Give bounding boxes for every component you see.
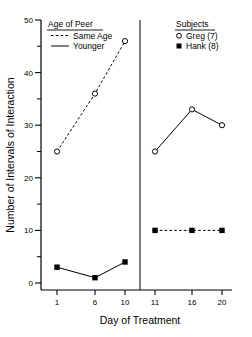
chart-figure: 50 40 30 20 10 0 Number of Intervals of … xyxy=(0,0,252,337)
legend-entry-hank-label: Hank (8) xyxy=(186,41,219,51)
y-tick-label-40: 40 xyxy=(24,69,33,78)
data-point-greg-day6 xyxy=(92,91,97,96)
legend-subjects-title: Subjects xyxy=(176,19,209,29)
y-axis: 50 40 30 20 10 0 xyxy=(24,16,41,290)
legend-entry-same-age-label: Same Age xyxy=(73,31,112,41)
legend-age-of-peer: Age of Peer Same Age Younger xyxy=(47,19,112,51)
data-point-hank-day20 xyxy=(219,228,224,233)
data-point-hank-day11 xyxy=(152,228,157,233)
y-tick-label-50: 50 xyxy=(24,16,33,25)
series-line-greg-baseline xyxy=(57,41,125,151)
y-tick-label-30: 30 xyxy=(24,121,33,130)
legend-entry-younger-label: Younger xyxy=(73,41,105,51)
y-axis-title: Number of Intervals of Interaction xyxy=(4,77,16,232)
x-tick-label-6: 6 xyxy=(93,298,98,307)
x-tick-label-20: 20 xyxy=(218,298,227,307)
y-tick-label-10: 10 xyxy=(24,226,33,235)
panel-treatment xyxy=(152,107,224,233)
legend-swatch-filled-square-icon xyxy=(177,44,182,49)
data-point-hank-day16 xyxy=(189,228,194,233)
data-point-greg-day11 xyxy=(152,149,157,154)
legend-entry-greg-label: Greg (7) xyxy=(186,31,218,41)
x-tick-label-11: 11 xyxy=(151,298,160,307)
data-point-hank-day6 xyxy=(92,275,97,280)
data-point-greg-day20 xyxy=(219,123,224,128)
legend-subjects: Subjects Greg (7) Hank (8) xyxy=(175,19,219,51)
data-point-hank-day1 xyxy=(54,265,59,270)
x-tick-label-10: 10 xyxy=(121,298,130,307)
legend-age-of-peer-title: Age of Peer xyxy=(48,19,93,29)
data-point-greg-day10 xyxy=(122,39,127,44)
series-line-greg-treatment xyxy=(155,109,222,151)
x-tick-label-16: 16 xyxy=(188,298,197,307)
data-point-greg-day16 xyxy=(189,107,194,112)
series-line-hank-baseline xyxy=(57,262,125,278)
x-axis: 1 6 10 11 16 20 xyxy=(41,290,232,307)
legend-swatch-open-circle-icon xyxy=(177,33,182,38)
data-point-greg-day1 xyxy=(54,149,59,154)
data-point-hank-day10 xyxy=(122,259,127,264)
x-tick-label-1: 1 xyxy=(55,298,60,307)
y-tick-label-20: 20 xyxy=(24,174,33,183)
y-tick-label-0: 0 xyxy=(29,279,34,288)
line-chart-svg: 50 40 30 20 10 0 Number of Intervals of … xyxy=(0,0,252,337)
x-axis-title: Day of Treatment xyxy=(100,314,181,326)
panel-baseline xyxy=(54,39,127,281)
